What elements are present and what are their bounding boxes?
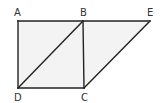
vertex-label-c: C — [81, 92, 88, 103]
segment-bc — [83, 21, 84, 88]
geometry-diagram: A B E D C — [0, 0, 160, 103]
vertex-label-a: A — [14, 7, 21, 18]
vertex-label-b: B — [80, 7, 87, 18]
vertex-label-e: E — [147, 7, 153, 18]
vertex-label-d: D — [14, 92, 22, 103]
